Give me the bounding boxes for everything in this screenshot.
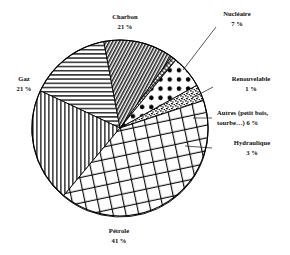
label-petrole-name: Pétrole (109, 227, 129, 234)
pie-chart-figure: Charbon 21 % Nucléaire 7 % Renouvelable … (0, 0, 290, 255)
label-gaz-name: Gaz (18, 75, 30, 82)
label-gaz-percent: 21 % (17, 85, 32, 92)
label-petrole-percent: 41 % (112, 237, 127, 244)
pie-chart-svg: Charbon 21 % Nucléaire 7 % Renouvelable … (0, 0, 290, 255)
label-nucleaire-name: Nucléaire (223, 10, 250, 17)
label-autres-line1: Autres (petit bois, (217, 109, 268, 117)
label-charbon-name: Charbon (112, 13, 138, 20)
label-renouvelable-name: Renouvelable (232, 75, 271, 82)
label-nucleaire-percent: 7 % (231, 20, 243, 27)
label-charbon-percent: 21 % (118, 23, 133, 30)
label-hydraulique-name: Hydraulique (234, 139, 270, 146)
label-renouvelable-percent: 1 % (245, 85, 257, 92)
label-hydraulique-percent: 3 % (246, 149, 258, 156)
label-autres-line2: tourbe…) 6 % (217, 119, 258, 127)
